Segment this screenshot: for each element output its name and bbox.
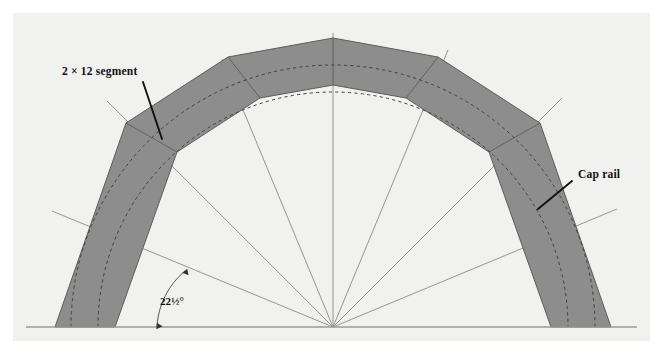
label-cap-rail: Cap rail <box>578 169 620 181</box>
label-2x12-segment: 2 × 12 segment <box>62 66 137 78</box>
figure-stage: 2 × 12 segment Cap rail 22½° <box>0 0 670 360</box>
arch-diagram <box>0 0 670 360</box>
label-angle-22-5-degrees: 22½° <box>160 296 184 307</box>
